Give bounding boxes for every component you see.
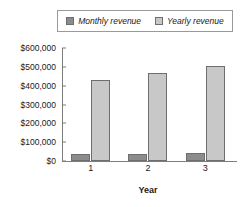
x-axis-line [62, 161, 237, 162]
x-axis-title: Year [62, 186, 234, 195]
legend-swatch-icon-yearly-revenue [155, 17, 163, 25]
bar-monthly-revenue-2[interactable] [128, 154, 147, 161]
plot-area: $0$100,000$200,000$300,000$400,000$500,0… [62, 48, 234, 161]
bar-groups [62, 48, 234, 161]
bar-monthly-revenue-3[interactable] [186, 153, 205, 161]
legend-label-yearly-revenue: Yearly revenue [167, 17, 224, 26]
bar-yearly-revenue-2[interactable] [148, 73, 167, 161]
bar-monthly-revenue-1[interactable] [71, 154, 90, 161]
bar-group [177, 48, 234, 161]
chart-legend: Monthly revenue Yearly revenue [57, 10, 233, 32]
legend-swatch-icon-monthly-revenue [66, 17, 74, 25]
x-axis-tick-labels: 123 [62, 164, 234, 173]
y-axis-tick-label: $100,000 [21, 138, 62, 147]
legend-item-yearly-revenue[interactable]: Yearly revenue [155, 17, 224, 26]
legend-label-monthly-revenue: Monthly revenue [78, 17, 141, 26]
bar-group [62, 48, 119, 161]
x-axis-tick-label: 2 [119, 164, 176, 173]
bar-yearly-revenue-3[interactable] [206, 66, 225, 161]
x-axis-tick-label: 3 [177, 164, 234, 173]
y-axis-tick-label: $300,000 [21, 100, 62, 109]
bar-chart: Monthly revenue Yearly revenue $0$100,00… [0, 0, 245, 207]
y-axis-tick-label: $500,000 [21, 63, 62, 72]
bar-group [119, 48, 176, 161]
y-axis-tick-label: $400,000 [21, 81, 62, 90]
y-axis-tick-label: $600,000 [21, 44, 62, 53]
x-axis-tick-label: 1 [62, 164, 119, 173]
y-axis-tick-label: $0 [47, 157, 62, 166]
legend-item-monthly-revenue[interactable]: Monthly revenue [66, 17, 141, 26]
y-axis-tick-label: $200,000 [21, 119, 62, 128]
bar-yearly-revenue-1[interactable] [91, 80, 110, 161]
